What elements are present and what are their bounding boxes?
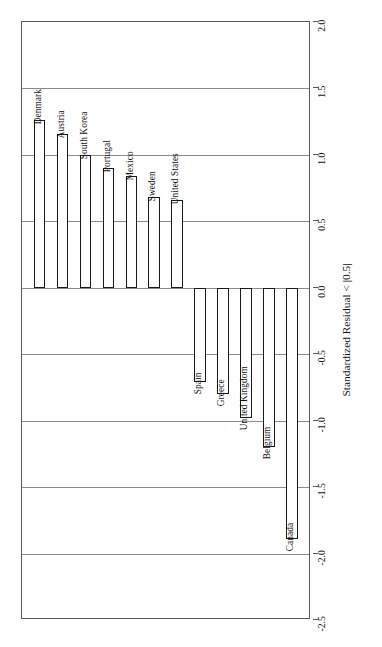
bar-label: Austria (56, 110, 65, 138)
bar (263, 288, 275, 448)
bar (34, 120, 46, 287)
bar-label: Canada (286, 523, 295, 551)
tick-label: -2.5 (317, 616, 327, 631)
bar-label: Sweden (148, 172, 157, 202)
bar-label: Denmark (33, 89, 42, 124)
bar (57, 134, 69, 288)
bar (126, 176, 138, 288)
tick-label: 0.5 (317, 219, 327, 231)
tick-label: -1.0 (317, 417, 327, 432)
tick-label: 1.0 (317, 153, 327, 165)
tick-label: -0.5 (317, 350, 327, 365)
y-axis-title: Standardized Residual < |0.5| (340, 263, 352, 396)
bar (103, 168, 115, 288)
bar-label: Mexico (125, 151, 134, 180)
tick-label: -2.0 (317, 550, 327, 565)
tick-label: 2.0 (317, 20, 327, 32)
tick-label: -1.5 (317, 483, 327, 498)
bar (171, 200, 183, 288)
bar-label: Belgium (263, 427, 272, 460)
bar (217, 288, 229, 394)
bar (80, 155, 92, 288)
bar (286, 288, 298, 539)
bar-label: Spain (194, 373, 203, 395)
bar-label: South Korea (79, 111, 88, 159)
tick-label: 0.0 (317, 286, 327, 298)
standardized-residual-bar-chart: 2.01.51.00.50.0-0.5-1.0-1.5-2.0-2.5 Stan… (0, 0, 382, 647)
bar-label: Portugal (102, 140, 111, 172)
bar-label: United States (171, 153, 180, 204)
bar-label: Greece (217, 379, 226, 406)
bar (194, 288, 206, 382)
bar-label: United Kingdom (240, 366, 249, 430)
tick-label: 1.5 (317, 86, 327, 98)
bar (148, 197, 160, 287)
